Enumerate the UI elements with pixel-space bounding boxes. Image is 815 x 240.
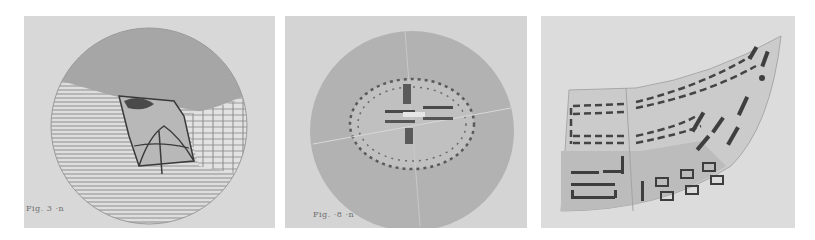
perspective-drawing xyxy=(24,16,275,228)
circular-plan-drawing xyxy=(285,16,527,228)
site-plan-drawing xyxy=(541,16,795,228)
figure-caption-1: Fig. 3 ·n xyxy=(26,204,64,213)
figure-panel-2: Fig. ·8 ·n xyxy=(285,16,527,228)
figure-panel-1: Fig. 3 ·n xyxy=(24,16,275,228)
figure-caption-2: Fig. ·8 ·n xyxy=(313,210,354,219)
figure-panel-3 xyxy=(541,16,795,228)
